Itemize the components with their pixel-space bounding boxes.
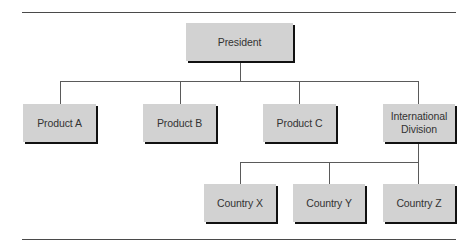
- node-country-x: Country X: [204, 184, 276, 222]
- node-product-a: Product A: [23, 104, 96, 142]
- node-label: President: [218, 36, 261, 49]
- connector-international: [418, 81, 419, 104]
- connector-level1-horizontal: [60, 81, 419, 82]
- connector-president-down: [240, 61, 241, 81]
- node-country-z: Country Z: [383, 184, 455, 222]
- node-label: Product A: [37, 117, 82, 130]
- node-label-line1: International: [391, 110, 448, 123]
- node-label: Country Y: [306, 197, 352, 210]
- node-label: Product C: [277, 117, 323, 130]
- node-label: Country Z: [396, 197, 441, 210]
- connector-product-a: [60, 81, 61, 104]
- node-country-y: Country Y: [293, 184, 365, 222]
- top-rule: [22, 12, 456, 13]
- node-label: Product B: [157, 117, 202, 130]
- bottom-rule: [22, 239, 456, 240]
- node-product-c: Product C: [263, 104, 336, 142]
- connector-product-b: [180, 81, 181, 104]
- connector-country-x: [240, 162, 241, 184]
- node-product-b: Product B: [143, 104, 216, 142]
- connector-country-y: [329, 162, 330, 184]
- connector-product-c: [299, 81, 300, 104]
- connector-international-down: [418, 142, 419, 184]
- node-label: Country X: [217, 197, 263, 210]
- node-label-line2: Division: [401, 123, 437, 136]
- node-president: President: [186, 23, 293, 61]
- node-international-division: International Division: [383, 104, 455, 142]
